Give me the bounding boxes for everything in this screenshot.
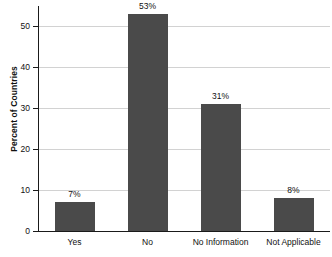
bar bbox=[274, 198, 314, 231]
bar-chart: Percent of Countries 01020304050 7%53%31… bbox=[0, 0, 332, 257]
bar-value-label: 7% bbox=[45, 190, 105, 199]
y-axis-tick-label: 20 bbox=[0, 145, 30, 154]
gridline bbox=[38, 67, 330, 68]
y-axis-tick bbox=[33, 67, 38, 68]
y-axis-tick bbox=[33, 231, 38, 232]
x-axis-line bbox=[38, 231, 330, 232]
y-axis-tick-label: 40 bbox=[0, 63, 30, 72]
y-axis-tick bbox=[33, 190, 38, 191]
bar bbox=[201, 104, 241, 231]
bar bbox=[128, 14, 168, 231]
x-axis-category-label: Not Applicable bbox=[234, 238, 332, 247]
y-axis-tick-label: 50 bbox=[0, 22, 30, 31]
y-axis-tick-label: 0 bbox=[0, 227, 30, 236]
bar-value-label: 8% bbox=[264, 186, 324, 195]
bar-value-label: 31% bbox=[191, 92, 251, 101]
y-axis-tick-label: 10 bbox=[0, 186, 30, 195]
bar bbox=[55, 202, 95, 231]
gridline bbox=[38, 26, 330, 27]
y-axis-tick bbox=[33, 26, 38, 27]
gridline bbox=[38, 149, 330, 150]
gridline bbox=[38, 108, 330, 109]
y-axis-tick bbox=[33, 149, 38, 150]
y-axis-line bbox=[38, 6, 39, 232]
bar-value-label: 53% bbox=[118, 2, 178, 11]
y-axis-tick bbox=[33, 108, 38, 109]
y-axis-tick-label: 30 bbox=[0, 104, 30, 113]
